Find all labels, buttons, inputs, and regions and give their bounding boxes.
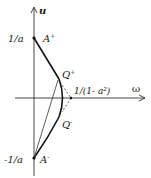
phase-diagram: u ω 1/a -1/a 1/(1- a²) A+ A- Q+ Q- [0,0,151,178]
segment-a-plus-q-plus [34,38,59,79]
label-a-plus: A+ [42,32,55,44]
label-a-minus: A- [39,153,49,165]
segment-q-minus-a-minus [34,117,59,158]
omega-axis-label: ω [132,83,140,94]
label-q-minus: Q- [62,118,72,130]
chord-a-minus-q-plus [34,80,58,158]
point-a-minus [32,156,35,159]
tick-label-singular-point: 1/(1- a²) [74,86,111,96]
tick-label-bottom: -1/a [4,154,23,165]
label-q-plus: Q+ [62,68,75,80]
dashed-point-to-q-minus [62,98,71,112]
point-a-plus [32,36,35,39]
tick-label-top: 1/a [8,33,24,44]
point-singular [70,97,72,99]
u-axis-label: u [39,5,46,16]
